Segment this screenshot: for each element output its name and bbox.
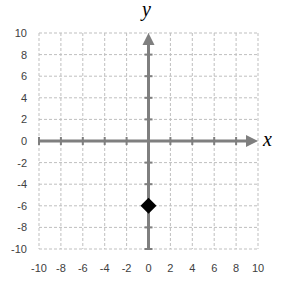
x-axis-title: x: [262, 128, 272, 150]
axes: [39, 33, 258, 249]
diamond-marker-icon: [141, 198, 157, 214]
coordinate-plane: -10-8-6-4-20246810 -10-8-6-4-20246810 x …: [0, 0, 283, 281]
y-tick-label: 4: [21, 92, 27, 104]
x-tick-label: -6: [78, 262, 88, 274]
x-tick-label: -10: [31, 262, 47, 274]
y-tick-label: -6: [17, 200, 27, 212]
y-tick-label: -10: [11, 243, 27, 255]
x-tick-label: 2: [167, 262, 173, 274]
y-tick-label: -2: [17, 157, 27, 169]
x-tick-label: 0: [145, 262, 151, 274]
axis-ticks: [39, 55, 236, 249]
x-axis-arrow-icon: [246, 135, 258, 147]
y-tick-label: 2: [21, 113, 27, 125]
y-tick-label: -4: [17, 178, 27, 190]
y-tick-label: 6: [21, 70, 27, 82]
y-axis-arrow-icon: [143, 33, 155, 45]
y-axis-title: y: [140, 0, 151, 21]
y-tick-label: 10: [15, 27, 27, 39]
x-tick-label: -4: [100, 262, 110, 274]
data-points: [141, 198, 157, 214]
x-tick-label: -8: [56, 262, 66, 274]
y-tick-label: -8: [17, 221, 27, 233]
x-tick-label: 8: [233, 262, 239, 274]
x-tick-label: 4: [189, 262, 195, 274]
y-tick-label: 0: [21, 135, 27, 147]
x-tick-label: -2: [122, 262, 132, 274]
x-tick-label: 10: [252, 262, 264, 274]
y-tick-labels: -10-8-6-4-20246810: [11, 27, 27, 255]
x-tick-labels: -10-8-6-4-20246810: [31, 262, 264, 274]
x-tick-label: 6: [211, 262, 217, 274]
y-tick-label: 8: [21, 49, 27, 61]
